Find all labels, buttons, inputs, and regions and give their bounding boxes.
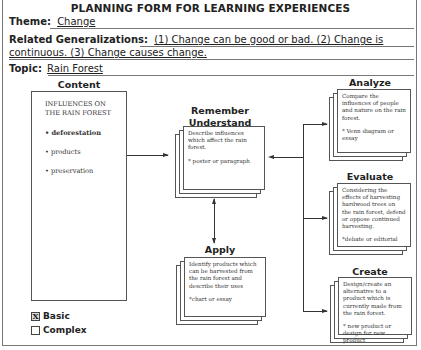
generalizations-line2: continuous. (3) Change causes change. <box>9 47 207 58</box>
topic-label: Topic: <box>9 63 42 74</box>
create-card-stack: Design/create an alternative to a produc… <box>330 277 412 343</box>
theme-value: Change <box>57 16 95 27</box>
content-heading-line2: THE RAIN FOREST <box>45 109 126 118</box>
topic-field: Topic: Rain Forest <box>9 63 103 74</box>
generalizations-rule2 <box>9 59 414 60</box>
create-note: * new product or design for new product <box>343 323 407 345</box>
create-card: Design/create an alternative to a produc… <box>338 277 412 335</box>
analyze-note: * Venn diagram or essay <box>342 128 406 142</box>
content-heading-line1: INFLUENCES ON <box>45 100 126 109</box>
form-title: PLANNING FORM FOR LEARNING EXPERIENCES <box>0 2 421 14</box>
apply-connector <box>214 199 215 243</box>
topic-value: Rain Forest <box>47 63 103 74</box>
generalizations-field: Related Generalizations: (1) Change can … <box>9 34 383 45</box>
evaluate-card: Considering the effects of harvesting ha… <box>337 183 411 247</box>
generalizations-line1: (1) Change can be good or bad. (2) Chang… <box>154 34 383 45</box>
remember-note: * poster or paragraph <box>188 158 260 165</box>
arrow-up-icon <box>212 198 216 204</box>
level-option-complex[interactable]: Complex <box>31 325 87 335</box>
analyze-text: Compare the influences of people and nat… <box>342 93 406 122</box>
basic-label: Basic <box>43 311 70 321</box>
remember-label-line1: Remember <box>170 105 270 117</box>
generalizations-continued: continuous. (3) Change causes change. <box>9 47 207 58</box>
arrow-right-icon <box>322 309 328 313</box>
content-heading: INFLUENCES ON THE RAIN FOREST <box>45 100 126 118</box>
basic-checkbox[interactable]: X <box>31 312 40 321</box>
higher-order-connector <box>273 157 303 158</box>
level-option-basic[interactable]: X Basic <box>31 311 70 321</box>
apply-text: Identify products which can be harvested… <box>189 261 261 290</box>
content-box: INFLUENCES ON THE RAIN FOREST • deforest… <box>31 91 127 301</box>
arrow-right-icon <box>322 216 328 220</box>
theme-rule <box>50 28 414 29</box>
remember-text: Describe influences which affect the rai… <box>188 130 260 152</box>
remember-card: Describe influences which affect the rai… <box>183 126 265 190</box>
apply-note: *chart or essay <box>189 296 261 303</box>
apply-card: Identify products which can be harvested… <box>184 257 266 317</box>
content-item-products: • products <box>45 148 126 156</box>
content-connector <box>127 155 168 156</box>
arrow-right-icon <box>322 122 328 126</box>
evaluate-text: Considering the effects of harvesting ha… <box>342 187 406 230</box>
apply-card-stack: Identify products which can be harvested… <box>176 257 266 325</box>
content-item-deforestation: • deforestation <box>45 129 126 137</box>
topic-rule <box>48 75 414 76</box>
remember-card-stack: Describe influences which affect the rai… <box>175 126 265 198</box>
generalizations-label: Related Generalizations: <box>9 34 148 45</box>
evaluate-card-stack: Considering the effects of harvesting ha… <box>329 183 411 255</box>
complex-checkbox[interactable] <box>31 326 40 335</box>
theme-field: Theme: Change <box>9 16 95 27</box>
content-item-preservation: • preservation <box>45 167 126 175</box>
theme-label: Theme: <box>9 16 51 27</box>
complex-label: Complex <box>43 325 87 335</box>
evaluate-note: *debate or editorial <box>342 236 406 243</box>
create-text: Design/create an alternative to a produc… <box>343 281 407 317</box>
analyze-card-stack: Compare the influences of people and nat… <box>329 89 411 161</box>
apply-label: Apply <box>170 244 270 256</box>
arrow-right-icon <box>163 153 169 157</box>
evaluate-label: Evaluate <box>330 171 410 183</box>
analyze-card: Compare the influences of people and nat… <box>337 89 411 153</box>
arrow-left-icon <box>268 155 274 159</box>
content-label: Content <box>31 79 127 91</box>
analyze-label: Analyze <box>330 77 410 89</box>
